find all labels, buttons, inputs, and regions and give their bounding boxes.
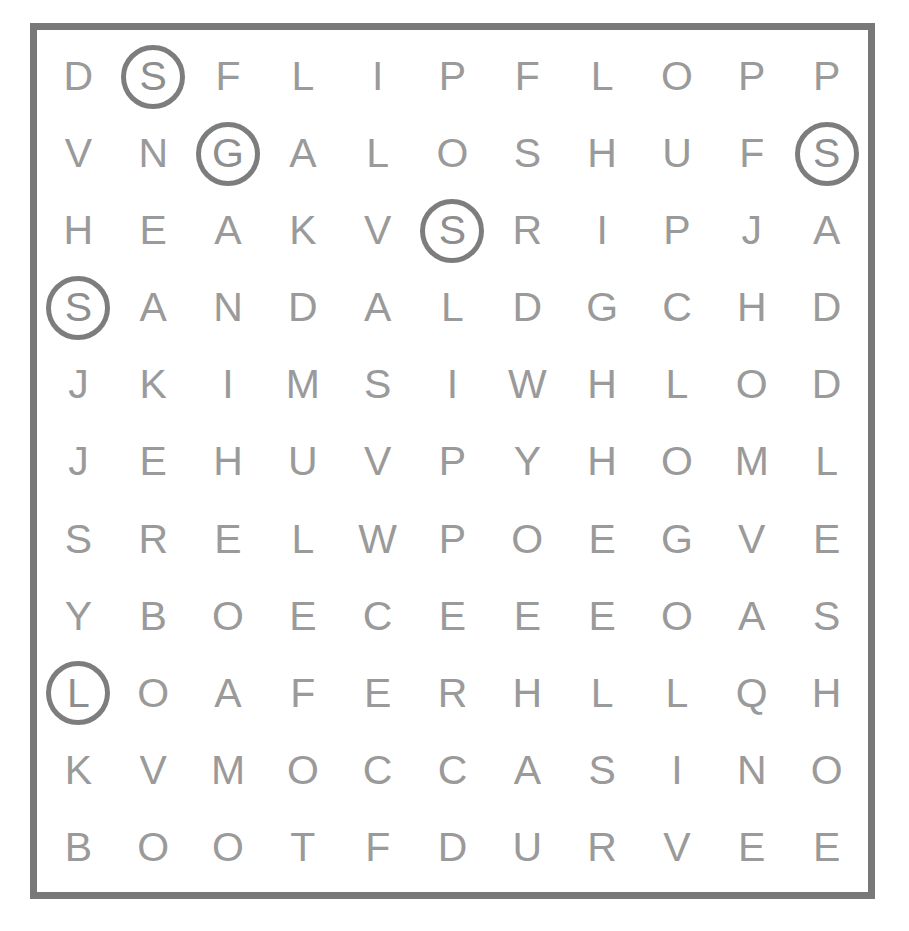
grid-cell[interactable]: J (41, 423, 116, 500)
grid-cell[interactable]: E (789, 501, 864, 578)
grid-cell[interactable]: O (191, 578, 266, 655)
grid-cell[interactable]: C (640, 269, 715, 346)
grid-cell[interactable]: F (490, 38, 565, 115)
grid-cell[interactable]: H (490, 655, 565, 732)
grid-cell[interactable]: V (340, 423, 415, 500)
grid-cell[interactable]: D (41, 38, 116, 115)
grid-cell[interactable]: E (340, 655, 415, 732)
grid-cell[interactable]: O (116, 655, 191, 732)
grid-cell[interactable]: O (640, 38, 715, 115)
grid-cell[interactable]: J (41, 346, 116, 423)
grid-cell[interactable]: N (191, 269, 266, 346)
grid-cell[interactable]: O (116, 809, 191, 886)
grid-cell[interactable]: S (340, 346, 415, 423)
grid-cell[interactable]: H (565, 423, 640, 500)
grid-cell[interactable]: A (265, 115, 340, 192)
grid-cell[interactable]: J (714, 192, 789, 269)
grid-cell[interactable]: D (789, 346, 864, 423)
grid-cell[interactable]: L (415, 269, 490, 346)
grid-cell[interactable]: K (265, 192, 340, 269)
grid-cell[interactable]: L (340, 115, 415, 192)
grid-cell[interactable]: U (490, 809, 565, 886)
grid-cell[interactable]: P (415, 38, 490, 115)
grid-cell[interactable]: S (565, 732, 640, 809)
grid-cell[interactable]: W (340, 501, 415, 578)
grid-cell[interactable]: M (714, 423, 789, 500)
grid-cell[interactable]: O (789, 732, 864, 809)
grid-cell[interactable]: E (415, 578, 490, 655)
grid-cell-circled[interactable]: L (41, 655, 116, 732)
grid-cell[interactable]: P (789, 38, 864, 115)
grid-cell[interactable]: C (340, 732, 415, 809)
grid-cell-circled[interactable]: S (415, 192, 490, 269)
grid-cell[interactable]: O (191, 809, 266, 886)
grid-cell[interactable]: S (41, 501, 116, 578)
grid-cell-circled[interactable]: S (116, 38, 191, 115)
grid-cell[interactable]: F (714, 115, 789, 192)
grid-cell[interactable]: W (490, 346, 565, 423)
grid-cell[interactable]: C (415, 732, 490, 809)
grid-cell[interactable]: H (565, 346, 640, 423)
grid-cell[interactable]: R (565, 809, 640, 886)
grid-cell[interactable]: E (191, 501, 266, 578)
grid-cell[interactable]: E (565, 501, 640, 578)
grid-cell[interactable]: P (415, 501, 490, 578)
grid-cell[interactable]: I (415, 346, 490, 423)
grid-cell[interactable]: L (565, 38, 640, 115)
grid-cell[interactable]: I (640, 732, 715, 809)
grid-cell[interactable]: O (415, 115, 490, 192)
grid-cell[interactable]: P (714, 38, 789, 115)
grid-cell[interactable]: O (640, 423, 715, 500)
grid-cell[interactable]: I (565, 192, 640, 269)
grid-cell[interactable]: V (41, 115, 116, 192)
grid-cell[interactable]: L (265, 501, 340, 578)
grid-cell[interactable]: E (565, 578, 640, 655)
grid-cell[interactable]: T (265, 809, 340, 886)
grid-cell[interactable]: A (789, 192, 864, 269)
grid-cell[interactable]: L (565, 655, 640, 732)
grid-cell[interactable]: D (490, 269, 565, 346)
grid-cell[interactable]: V (340, 192, 415, 269)
grid-cell[interactable]: H (191, 423, 266, 500)
grid-cell[interactable]: M (265, 346, 340, 423)
grid-cell[interactable]: S (789, 578, 864, 655)
grid-cell[interactable]: P (640, 192, 715, 269)
grid-cell[interactable]: G (565, 269, 640, 346)
grid-cell[interactable]: P (415, 423, 490, 500)
grid-cell[interactable]: E (265, 578, 340, 655)
grid-cell[interactable]: K (41, 732, 116, 809)
grid-cell[interactable]: H (565, 115, 640, 192)
grid-cell[interactable]: H (41, 192, 116, 269)
grid-cell[interactable]: A (490, 732, 565, 809)
grid-cell[interactable]: C (340, 578, 415, 655)
grid-cell[interactable]: L (789, 423, 864, 500)
grid-cell[interactable]: E (116, 192, 191, 269)
grid-cell[interactable]: D (415, 809, 490, 886)
grid-cell-circled[interactable]: G (191, 115, 266, 192)
grid-cell[interactable]: M (191, 732, 266, 809)
grid-cell[interactable]: D (265, 269, 340, 346)
grid-cell[interactable]: U (640, 115, 715, 192)
grid-cell[interactable]: Q (714, 655, 789, 732)
grid-cell[interactable]: E (490, 578, 565, 655)
grid-cell[interactable]: O (640, 578, 715, 655)
grid-cell[interactable]: B (41, 809, 116, 886)
grid-cell[interactable]: F (340, 809, 415, 886)
grid-cell[interactable]: O (265, 732, 340, 809)
grid-cell[interactable]: Y (490, 423, 565, 500)
grid-cell[interactable]: E (714, 809, 789, 886)
grid-cell[interactable]: S (490, 115, 565, 192)
grid-cell[interactable]: H (789, 655, 864, 732)
grid-cell[interactable]: U (265, 423, 340, 500)
grid-cell[interactable]: A (191, 192, 266, 269)
grid-cell-circled[interactable]: S (789, 115, 864, 192)
grid-cell[interactable]: A (191, 655, 266, 732)
grid-cell[interactable]: L (640, 346, 715, 423)
grid-cell[interactable]: Y (41, 578, 116, 655)
grid-cell[interactable]: I (340, 38, 415, 115)
grid-cell[interactable]: R (490, 192, 565, 269)
grid-cell[interactable]: V (116, 732, 191, 809)
grid-cell[interactable]: N (714, 732, 789, 809)
grid-cell[interactable]: L (640, 655, 715, 732)
grid-cell-circled[interactable]: S (41, 269, 116, 346)
